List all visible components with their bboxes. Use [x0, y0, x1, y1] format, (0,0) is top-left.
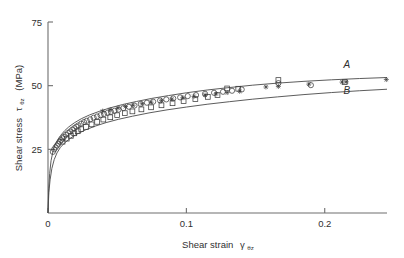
- x-tick-label: 0.1: [180, 218, 193, 229]
- y-axis-ticks: [48, 22, 53, 149]
- data-point: [140, 101, 145, 106]
- data-point: [225, 90, 230, 95]
- y-axis-symbol-subscript: θz: [18, 98, 25, 105]
- data-point: [276, 78, 281, 83]
- data-point: [159, 103, 164, 108]
- data-point: [149, 105, 154, 110]
- data-point: [95, 119, 100, 124]
- data-markers-circle: [50, 81, 313, 155]
- data-point: [306, 82, 311, 87]
- curve-b: [48, 89, 387, 213]
- data-point: [108, 107, 113, 112]
- x-axis-ticks: [48, 208, 325, 213]
- data-point: [159, 98, 164, 103]
- curve-label-a: A: [343, 59, 351, 70]
- y-tick-label: 25: [31, 144, 42, 155]
- curve-label-b: B: [344, 85, 351, 96]
- data-point: [95, 114, 100, 119]
- y-tick-label: 50: [31, 80, 42, 91]
- data-point: [203, 93, 208, 98]
- y-tick-label: 75: [31, 17, 42, 28]
- data-point: [122, 111, 127, 116]
- data-point: [276, 84, 281, 89]
- y-axis-title: Shear stress τ θz (MPa): [13, 65, 26, 171]
- data-point: [89, 122, 94, 127]
- y-axis-title-units: (MPa): [13, 65, 24, 91]
- data-point: [149, 100, 154, 105]
- data-point: [115, 106, 120, 111]
- x-tick-label: 0: [45, 218, 50, 229]
- svg-text:Shear stress τ: Shear stress τ θz (MPa): [13, 65, 26, 171]
- data-point: [263, 84, 268, 89]
- y-axis-symbol-tau: τ: [13, 107, 24, 111]
- x-axis-symbol-gamma: γ: [240, 239, 245, 250]
- data-point: [185, 94, 190, 99]
- data-point: [169, 97, 174, 102]
- x-axis-title: Shear strain γ θz: [182, 239, 254, 251]
- x-axis-tick-labels: 00.10.2: [45, 218, 331, 229]
- data-point: [214, 91, 219, 96]
- data-point: [131, 103, 136, 108]
- y-axis-title-main: Shear stress: [13, 118, 24, 172]
- y-axis-tick-labels: 255075: [31, 17, 42, 155]
- x-axis-symbol-subscript: θz: [247, 244, 254, 251]
- data-point: [100, 109, 105, 114]
- data-point: [164, 97, 169, 102]
- data-point: [229, 88, 234, 93]
- shear-stress-strain-plot: 255075 00.10.2 A B Shear stress τ θz (MP…: [0, 0, 404, 258]
- data-point: [344, 79, 349, 84]
- chart-figure: 255075 00.10.2 A B Shear stress τ θz (MP…: [0, 0, 404, 258]
- data-point: [139, 107, 144, 112]
- x-tick-label: 0.2: [318, 218, 331, 229]
- data-point: [191, 94, 196, 99]
- data-point: [180, 95, 185, 100]
- data-point: [384, 77, 389, 82]
- x-axis-title-main: Shear strain: [182, 239, 233, 250]
- data-point: [237, 89, 242, 94]
- data-point: [170, 101, 175, 106]
- data-point: [123, 104, 128, 109]
- data-point: [130, 109, 135, 114]
- svg-text:Shear strain γ: Shear strain γ θz: [182, 239, 254, 251]
